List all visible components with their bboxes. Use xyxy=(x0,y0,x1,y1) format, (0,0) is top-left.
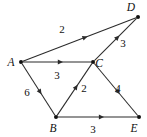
edge-weight-b-c: 2 xyxy=(81,82,87,94)
arrowhead-b-to-c xyxy=(73,85,78,91)
node-label-a: A xyxy=(6,56,15,68)
node-label-d: D xyxy=(126,1,136,13)
nodes-layer xyxy=(19,15,141,119)
edge-weight-a-d: 2 xyxy=(59,23,65,35)
edge-c-to-d xyxy=(94,18,136,60)
node-e xyxy=(137,115,141,119)
node-label-b: B xyxy=(49,122,56,134)
edge-weight-c-e: 4 xyxy=(115,82,121,94)
node-label-c: C xyxy=(95,57,103,69)
arrowhead-a-to-c xyxy=(58,60,63,65)
edge-weight-a-b: 6 xyxy=(24,86,30,98)
edge-weight-b-e: 3 xyxy=(90,123,96,135)
edges-layer xyxy=(22,18,138,117)
arrowhead-a-to-b xyxy=(37,89,42,95)
node-labels-layer: ABCDE xyxy=(6,1,137,134)
node-label-e: E xyxy=(129,122,137,134)
arrowhead-b-to-e xyxy=(99,115,104,120)
node-a xyxy=(19,60,23,64)
node-b xyxy=(54,115,58,119)
edge-weight-labels-layer: 2362334 xyxy=(24,23,126,135)
node-d xyxy=(136,15,140,19)
edge-a-to-d xyxy=(23,18,136,62)
edge-weight-a-c: 3 xyxy=(54,69,60,81)
edge-weight-c-d: 3 xyxy=(120,37,126,49)
weighted-digraph-figure: 2362334 ABCDE xyxy=(0,0,147,137)
graph-canvas: 2362334 ABCDE xyxy=(0,0,147,137)
